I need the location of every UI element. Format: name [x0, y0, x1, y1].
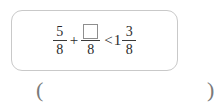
worksheet-screen: 5 8 + 8 < 1 3 8 ( ) [0, 0, 220, 108]
fraction-denominator: 8 [124, 42, 135, 57]
fraction-denominator: 8 [85, 42, 96, 57]
fraction-numerator: 3 [124, 24, 135, 39]
fraction-bar [122, 40, 136, 41]
fraction-blank-over-eight: 8 [81, 24, 100, 57]
fraction-denominator: 8 [54, 42, 65, 57]
answer-square-icon[interactable] [83, 24, 98, 39]
answer-blank[interactable]: ( ) [30, 76, 220, 104]
less-than-operator: < [100, 33, 113, 48]
fraction-five-eighths: 5 8 [53, 24, 67, 57]
fraction-three-eighths: 3 8 [122, 24, 136, 57]
close-paren: ) [207, 76, 214, 104]
math-expression: 5 8 + 8 < 1 3 8 [12, 11, 177, 70]
fraction-bar [81, 40, 100, 41]
plus-operator: + [67, 33, 81, 48]
fraction-numerator: 5 [54, 24, 65, 39]
fraction-bar [53, 40, 67, 41]
problem-card: 5 8 + 8 < 1 3 8 [11, 10, 178, 71]
open-paren: ( [36, 76, 43, 104]
mixed-number-whole-part: 1 [114, 33, 123, 48]
blank-numerator-cell[interactable] [81, 24, 100, 39]
